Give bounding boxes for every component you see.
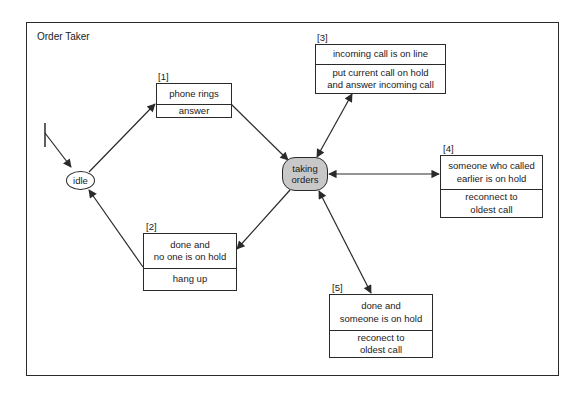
transition-2-action: hang up xyxy=(144,269,236,290)
arrow-taking-t3 xyxy=(317,94,352,157)
transition-5-box: done and someone is on hold reconect to … xyxy=(329,294,433,358)
transition-4-box: someone who called earlier is on hold re… xyxy=(440,155,543,218)
arrow-idle-to-t1 xyxy=(89,104,155,172)
transition-1-action: answer xyxy=(157,105,231,118)
transition-1-condition: phone rings xyxy=(157,84,231,105)
initial-arrow xyxy=(45,133,71,167)
transition-4-condition: someone who called earlier is on hold xyxy=(441,156,542,190)
transition-3-tag: [3] xyxy=(317,32,328,43)
state-diagram: Order Taker idle taking xyxy=(0,0,585,393)
transition-2-box: done and no one is on hold hang up xyxy=(143,233,237,291)
arrow-t2-to-idle xyxy=(89,190,143,267)
transition-5-condition: done and someone is on hold xyxy=(330,295,432,331)
transition-2-tag: [2] xyxy=(146,221,157,232)
transition-3-condition: incoming call is on line xyxy=(316,45,445,65)
state-taking-orders: taking orders xyxy=(282,157,328,191)
transition-5-action: reconect to oldest call xyxy=(330,331,432,357)
transition-5-tag: [5] xyxy=(332,282,343,293)
arrow-t1-to-taking xyxy=(231,104,288,160)
arrow-taking-to-t2 xyxy=(237,190,290,249)
transition-3-action: put current call on hold and answer inco… xyxy=(316,65,445,93)
transition-1-tag: [1] xyxy=(158,71,169,82)
transition-2-condition: done and no one is on hold xyxy=(144,234,236,269)
arrow-taking-t5 xyxy=(319,191,371,293)
transition-1-box: phone rings answer xyxy=(156,83,232,118)
transition-4-action: reconnect to oldest call xyxy=(441,190,542,217)
state-idle: idle xyxy=(66,171,95,190)
transition-4-tag: [4] xyxy=(443,143,454,154)
transition-3-box: incoming call is on line put current cal… xyxy=(315,44,446,94)
